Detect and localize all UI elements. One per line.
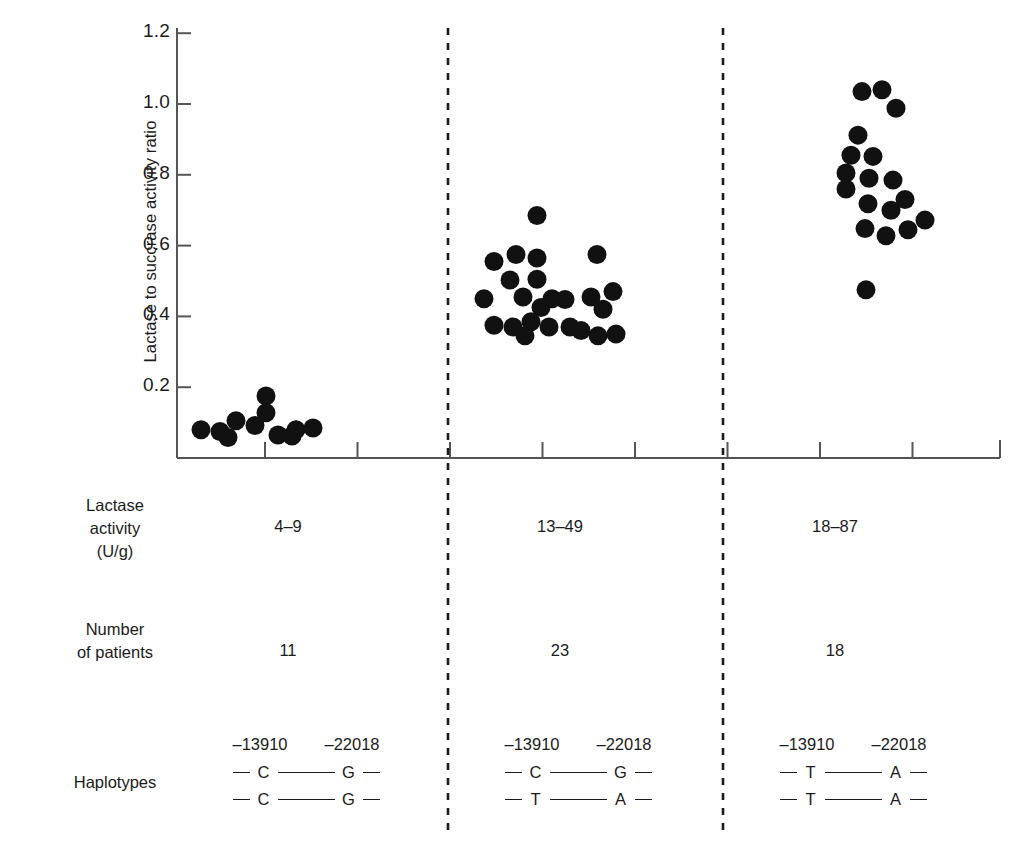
haplotype-line-segment	[363, 799, 380, 800]
haplotype-positions: –13910–22018	[738, 735, 968, 754]
data-point-group	[192, 80, 935, 447]
data-point	[516, 326, 535, 345]
data-point	[540, 318, 559, 337]
y-tick-label: 0.6	[118, 233, 170, 255]
haplotype-allele-row: TA	[463, 786, 693, 813]
data-point	[842, 146, 861, 165]
row-label-line: Number	[20, 618, 210, 641]
cell-lactase-activity-group-2: 13–49	[450, 517, 670, 536]
row-label-line: (U/g)	[20, 540, 210, 563]
data-point	[859, 194, 878, 213]
haplotype-positions: –13910–22018	[191, 735, 421, 754]
haplotype-line-segment	[505, 799, 522, 800]
haplotype-allele: A	[886, 791, 906, 808]
data-point	[607, 325, 626, 344]
data-point	[528, 270, 547, 289]
haplotype-allele-row: CG	[191, 786, 421, 813]
y-tick-label: 0.2	[118, 374, 170, 396]
haplotype-allele: A	[611, 791, 631, 808]
haplotype-position-label: –13910	[214, 735, 306, 754]
haplotype-line-segment	[910, 772, 927, 773]
data-point	[853, 82, 872, 101]
y-tick-label: 0.4	[118, 303, 170, 325]
haplotype-positions: –13910–22018	[463, 735, 693, 754]
haplotype-line-segment	[233, 772, 250, 773]
data-point	[485, 252, 504, 271]
data-point	[877, 226, 896, 245]
haplotype-line-segment	[780, 799, 797, 800]
haplotype-line-segment	[825, 772, 882, 773]
haplotype-allele: C	[254, 791, 274, 808]
haplotype-line-segment	[363, 772, 380, 773]
data-point	[873, 80, 892, 99]
data-point	[864, 147, 883, 166]
haplotype-line-segment	[278, 799, 335, 800]
haplotype-allele: C	[526, 764, 546, 781]
haplotype-allele: G	[339, 791, 359, 808]
data-point	[219, 428, 238, 447]
data-point	[857, 280, 876, 299]
y-axis-ticks	[177, 33, 191, 387]
row-label-haplotypes: Haplotypes	[20, 771, 210, 794]
cell-lactase-activity-group-1: 4–9	[178, 517, 398, 536]
haplotype-line-segment	[780, 772, 797, 773]
haplotype-allele: G	[611, 764, 631, 781]
data-point	[849, 126, 868, 145]
haplotype-line-segment	[910, 799, 927, 800]
data-point	[887, 99, 906, 118]
data-point	[588, 245, 607, 264]
data-point	[227, 411, 246, 430]
haplotype-line-segment	[825, 799, 882, 800]
data-point	[485, 316, 504, 335]
data-point	[899, 220, 918, 239]
haplotype-line-segment	[505, 772, 522, 773]
data-point	[572, 321, 591, 340]
haplotype-allele-row: CG	[191, 759, 421, 786]
y-tick-label: 0.8	[118, 162, 170, 184]
data-point	[257, 387, 276, 406]
haplotype-line-segment	[550, 772, 607, 773]
data-point	[594, 300, 613, 319]
haplotype-line-segment	[233, 799, 250, 800]
group-dividers	[448, 28, 723, 836]
haplotype-position-label: –22018	[306, 735, 398, 754]
cell-number-of-patients-group-2: 23	[450, 641, 670, 660]
haplotype-line-segment	[550, 799, 607, 800]
data-point	[475, 289, 494, 308]
cell-lactase-activity-group-3: 18–87	[725, 517, 945, 536]
haplotype-allele: G	[339, 764, 359, 781]
y-tick-label: 1.2	[118, 20, 170, 42]
haplotype-allele: T	[801, 791, 821, 808]
haplotype-block-group-1: –13910–22018CGCG	[191, 735, 421, 813]
data-point	[604, 282, 623, 301]
data-point	[501, 270, 520, 289]
data-point	[528, 248, 547, 267]
data-point	[528, 206, 547, 225]
haplotype-allele-row: TA	[738, 759, 968, 786]
y-tick-label: 1.0	[118, 91, 170, 113]
data-point	[556, 290, 575, 309]
haplotype-allele: T	[801, 764, 821, 781]
data-point	[192, 420, 211, 439]
row-label-line: Lactase	[20, 494, 210, 517]
haplotype-position-label: –13910	[761, 735, 853, 754]
haplotype-allele-row: TA	[738, 786, 968, 813]
data-point	[287, 420, 306, 439]
data-point	[304, 418, 323, 437]
data-point	[916, 211, 935, 230]
haplotype-allele-row: CG	[463, 759, 693, 786]
haplotype-block-group-2: –13910–22018CGTA	[463, 735, 693, 813]
data-point	[589, 326, 608, 345]
data-point	[882, 201, 901, 220]
data-point	[257, 403, 276, 422]
haplotype-allele: A	[886, 764, 906, 781]
haplotype-position-label: –22018	[578, 735, 670, 754]
data-point	[860, 169, 879, 188]
haplotype-line-segment	[635, 799, 652, 800]
haplotype-position-label: –13910	[486, 735, 578, 754]
data-point	[884, 171, 903, 190]
haplotype-line-segment	[278, 772, 335, 773]
data-point	[507, 245, 526, 264]
haplotype-allele: T	[526, 791, 546, 808]
data-point	[837, 179, 856, 198]
